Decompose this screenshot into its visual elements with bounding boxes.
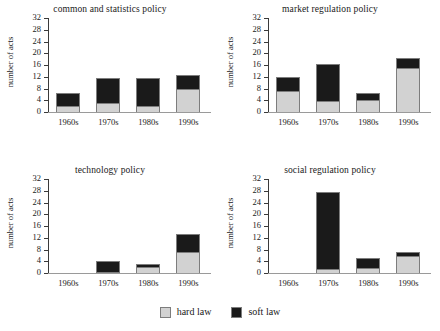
bar-segment-hard-law[interactable] (396, 68, 420, 112)
y-tick-label: 24 (33, 36, 42, 47)
x-tick-label: 1960s (269, 278, 308, 289)
bar-slot (269, 179, 308, 273)
stacked-bar[interactable] (356, 258, 380, 273)
bar-segment-hard-law[interactable] (276, 91, 300, 112)
y-tick: 8 (44, 250, 48, 251)
x-axis-line (48, 273, 211, 274)
stacked-bar[interactable] (136, 78, 160, 112)
soft-law-swatch (231, 307, 242, 318)
stacked-bar[interactable] (96, 78, 120, 112)
x-tick-label: 1980s (129, 117, 168, 128)
bar-segment-soft-law[interactable] (176, 234, 200, 253)
plot-area: 048121620242832 1960s1970s1980s1990s (268, 179, 428, 273)
y-tick-label: 16 (253, 59, 262, 70)
x-tick-label: 1970s (89, 117, 128, 128)
bar-segment-soft-law[interactable] (316, 192, 340, 268)
y-tick-label: 28 (253, 185, 262, 196)
bar-segment-hard-law[interactable] (316, 101, 340, 112)
y-tick: 24 (264, 203, 268, 204)
y-tick: 0 (264, 273, 268, 274)
y-tick-label: 8 (37, 83, 41, 94)
x-tick-label: 1960s (49, 117, 88, 128)
bar-segment-hard-law[interactable] (136, 106, 160, 112)
bar-segment-hard-law[interactable] (96, 103, 120, 112)
y-tick: 24 (264, 42, 268, 43)
stacked-bar[interactable] (136, 264, 160, 273)
x-tick-label: 1960s (49, 278, 88, 289)
y-tick: 16 (44, 65, 48, 66)
stacked-bar[interactable] (396, 58, 420, 112)
y-tick: 32 (264, 179, 268, 180)
bar-slot (169, 179, 208, 273)
stacked-bar[interactable] (56, 93, 80, 112)
y-tick: 8 (264, 250, 268, 251)
stacked-bar[interactable] (176, 75, 200, 112)
bar-segment-soft-law[interactable] (96, 78, 120, 103)
y-tick-label: 20 (253, 47, 262, 58)
y-tick: 4 (44, 100, 48, 101)
plot-area: 048121620242832 1960s1970s1980s1990s (48, 179, 208, 273)
bar-segment-hard-law[interactable] (396, 256, 420, 273)
bar-group (269, 18, 428, 112)
bar-slot (269, 18, 308, 112)
y-tick: 20 (44, 53, 48, 54)
bar-segment-soft-law[interactable] (356, 93, 380, 100)
y-tick: 20 (44, 214, 48, 215)
x-tick-label: 1960s (269, 117, 308, 128)
bar-segment-hard-law[interactable] (356, 268, 380, 273)
stacked-bar[interactable] (356, 93, 380, 112)
y-tick: 20 (264, 214, 268, 215)
x-tick-label: 1970s (309, 278, 348, 289)
legend-item-soft-law: soft law (231, 305, 280, 319)
y-tick: 12 (44, 238, 48, 239)
stacked-bar[interactable] (276, 77, 300, 112)
y-tick: 12 (264, 77, 268, 78)
chart-legend: hard law soft law (0, 305, 440, 319)
stacked-bar[interactable] (396, 252, 420, 273)
y-tick-label: 4 (257, 255, 261, 266)
bar-slot (309, 179, 348, 273)
bar-segment-hard-law[interactable] (136, 267, 160, 273)
x-axis-line (268, 112, 431, 113)
y-tick-label: 0 (37, 267, 41, 278)
y-tick: 32 (264, 18, 268, 19)
bar-slot (49, 179, 88, 273)
bar-segment-hard-law[interactable] (176, 252, 200, 273)
y-tick-label: 0 (257, 267, 261, 278)
stacked-bar[interactable] (316, 64, 340, 112)
y-tick-label: 32 (33, 173, 42, 184)
bar-segment-hard-law[interactable] (176, 89, 200, 113)
y-tick-label: 12 (33, 232, 42, 243)
bar-segment-soft-law[interactable] (316, 64, 340, 101)
bar-segment-soft-law[interactable] (176, 75, 200, 88)
bar-segment-soft-law[interactable] (56, 93, 80, 106)
bar-segment-soft-law[interactable] (396, 58, 420, 68)
bar-segment-soft-law[interactable] (356, 258, 380, 268)
y-tick-label: 20 (33, 208, 42, 219)
x-tick-label: 1980s (349, 278, 388, 289)
y-tick: 28 (44, 191, 48, 192)
stacked-bar[interactable] (176, 234, 200, 273)
y-tick-label: 8 (257, 83, 261, 94)
y-tick-label: 24 (253, 36, 262, 47)
bar-segment-hard-law[interactable] (56, 106, 80, 112)
y-axis-label: number of acts (4, 24, 16, 100)
y-tick-label: 0 (37, 106, 41, 117)
bar-slot (169, 18, 208, 112)
bar-segment-soft-law[interactable] (96, 261, 120, 273)
bar-segment-hard-law[interactable] (356, 100, 380, 112)
y-tick-label: 24 (33, 197, 42, 208)
x-axis-line (48, 112, 211, 113)
y-tick-label: 28 (253, 24, 262, 35)
bar-segment-soft-law[interactable] (136, 78, 160, 106)
bar-segment-hard-law[interactable] (316, 269, 340, 273)
bar-segment-soft-law[interactable] (276, 77, 300, 91)
y-tick-label: 24 (253, 197, 262, 208)
stacked-bar[interactable] (316, 192, 340, 273)
x-tick-label: 1980s (349, 117, 388, 128)
bar-slot (129, 179, 168, 273)
x-axis-line (268, 273, 431, 274)
y-tick-label: 32 (253, 12, 262, 23)
stacked-bar[interactable] (96, 261, 120, 273)
y-tick: 0 (264, 112, 268, 113)
